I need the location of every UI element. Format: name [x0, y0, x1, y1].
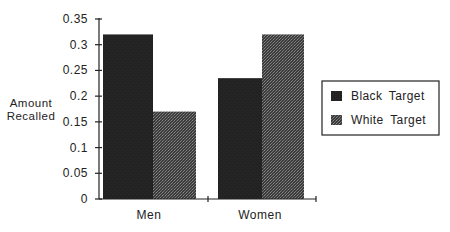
legend-label-white-target: White Target	[351, 113, 426, 127]
x-category-label-men: Men	[137, 208, 162, 222]
bar-women-black-target	[218, 78, 262, 199]
legend: Black Target White Target	[322, 81, 439, 135]
y-tick-label: 0.25	[63, 63, 88, 77]
y-tick-label: 0.35	[63, 12, 88, 26]
bar-chart: Amount Recalled 00.050.10.150.20.250.30.…	[0, 0, 450, 232]
y-tick-label: 0.15	[63, 115, 88, 129]
x-category-label-women: Women	[238, 208, 282, 222]
y-tick-label: 0.05	[63, 166, 88, 180]
y-axis-ticks: 00.050.10.150.20.250.30.35	[63, 12, 102, 206]
y-tick-label: 0.1	[70, 141, 88, 155]
legend-label-black-target: Black Target	[351, 89, 425, 103]
y-tick-label: 0	[81, 192, 88, 206]
y-tick-label: 0.2	[70, 89, 88, 103]
bar-women-white-target	[262, 34, 304, 199]
bar-men-black-target	[103, 34, 153, 199]
legend-swatch-black-target	[331, 91, 342, 101]
bar-men-white-target	[153, 112, 196, 199]
x-axis-category-labels: MenWomen	[137, 208, 282, 222]
y-axis-title-line-1: Amount	[10, 97, 53, 109]
bars	[103, 34, 304, 199]
y-axis-title-line-2: Recalled	[7, 110, 56, 122]
legend-swatch-white-target	[331, 115, 342, 125]
y-axis-title: Amount Recalled	[7, 97, 56, 122]
y-tick-label: 0.3	[70, 38, 88, 52]
